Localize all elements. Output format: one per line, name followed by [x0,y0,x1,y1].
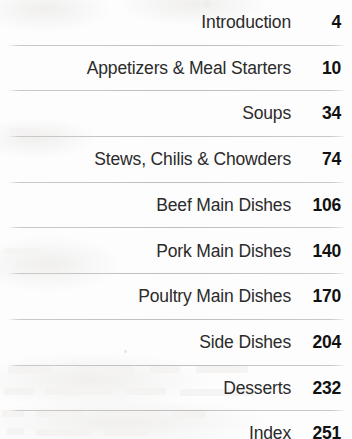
toc-entry-title: Pork Main Dishes [156,243,291,261]
toc-entry-introduction[interactable]: Introduction 4 [0,0,352,46]
toc-entry-page-number: 74 [307,151,341,169]
toc-entry-pork-main-dishes[interactable]: Pork Main Dishes 140 [0,228,352,274]
toc-entry-poultry-main-dishes[interactable]: Poultry Main Dishes 170 [0,274,352,320]
toc-entry-title: Side Dishes [199,334,291,352]
toc-entry-title: Soups [242,105,291,123]
toc-entry-appetizers-meal-starters[interactable]: Appetizers & Meal Starters 10 [0,46,352,92]
table-of-contents-page: Introduction 4 Appetizers & Meal Starter… [0,0,352,439]
table-of-contents-list: Introduction 4 Appetizers & Meal Starter… [0,0,352,439]
toc-entry-title: Desserts [223,380,291,398]
toc-entry-desserts[interactable]: Desserts 232 [0,366,352,412]
toc-entry-beef-main-dishes[interactable]: Beef Main Dishes 106 [0,183,352,229]
toc-entry-title: Poultry Main Dishes [138,288,291,306]
toc-entry-side-dishes[interactable]: Side Dishes 204 [0,320,352,366]
toc-entry-title: Introduction [201,14,291,32]
toc-entry-page-number: 170 [307,288,341,306]
toc-entry-soups[interactable]: Soups 34 [0,91,352,137]
toc-entry-title: Stews, Chilis & Chowders [94,151,291,169]
toc-entry-page-number: 106 [307,197,341,215]
toc-entry-title: Beef Main Dishes [156,197,291,215]
toc-entry-page-number: 4 [307,14,341,32]
toc-entry-stews-chilis-chowders[interactable]: Stews, Chilis & Chowders 74 [0,137,352,183]
toc-entry-page-number: 140 [307,243,341,261]
toc-entry-page-number: 251 [307,425,341,439]
toc-entry-page-number: 204 [307,334,341,352]
toc-entry-title: Appetizers & Meal Starters [87,60,291,78]
toc-entry-title: Index [249,425,291,439]
toc-entry-page-number: 232 [307,380,341,398]
toc-entry-page-number: 10 [307,60,341,78]
toc-entry-page-number: 34 [307,105,341,123]
toc-entry-index[interactable]: Index 251 [0,411,352,439]
